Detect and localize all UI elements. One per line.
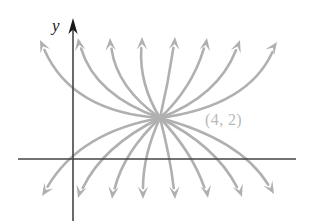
equilibrium-point-label: (4, 2) bbox=[205, 111, 242, 129]
trajectory-curve bbox=[143, 118, 160, 188]
trajectory-arrowhead-icon bbox=[201, 185, 211, 198]
trajectory-arrowhead-icon bbox=[77, 185, 87, 198]
trajectory-curve bbox=[160, 118, 204, 188]
trajectory-arrowhead-icon bbox=[263, 181, 274, 194]
phase-portrait-figure: y (4, 2) bbox=[0, 0, 315, 221]
y-axis-label: y bbox=[50, 16, 60, 35]
trajectory-arrowhead-icon bbox=[233, 184, 243, 197]
trajectory-curve bbox=[160, 52, 272, 118]
trajectory-curve bbox=[141, 48, 160, 118]
trajectory-curve bbox=[160, 118, 174, 188]
phase-portrait-canvas: y (4, 2) bbox=[0, 0, 315, 221]
